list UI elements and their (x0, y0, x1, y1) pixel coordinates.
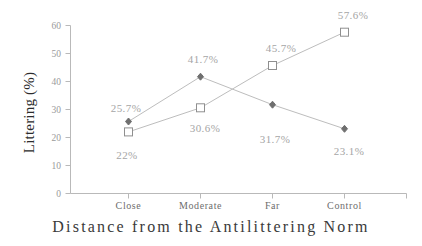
value-labels-solid: 25.7% 41.7% 31.7% 23.1% (111, 53, 364, 157)
x-tick-label-far: Far (265, 200, 280, 211)
y-tick-label-50: 50 (52, 49, 62, 59)
chart-figure: Littering (%) 0 10 20 30 40 50 60 (0, 0, 422, 246)
x-tick-label-moderate: Moderate (179, 200, 222, 211)
x-tick-label-close: Close (116, 200, 142, 211)
y-axis-ticks: 0 10 20 30 40 50 60 (52, 21, 71, 199)
value-label-open-moderate: 30.6% (190, 122, 220, 134)
x-axis-ticks: Close Moderate Far Control (116, 194, 407, 212)
y-tick-label-20: 20 (52, 133, 62, 143)
data-point-open-far (269, 62, 277, 70)
data-point-solid-moderate (198, 73, 204, 80)
value-label-solid-close: 25.7% (111, 102, 141, 114)
x-axis-title: Distance from the Antilittering Norm (0, 218, 422, 236)
data-point-open-moderate (197, 104, 205, 112)
y-tick-label-30: 30 (52, 105, 62, 115)
value-label-solid-far: 31.7% (260, 133, 290, 145)
x-tick-label-control: Control (327, 200, 362, 211)
series-line-open (129, 32, 345, 132)
data-point-solid-far (270, 101, 276, 108)
value-label-open-far: 45.7% (266, 42, 296, 54)
data-point-solid-control (342, 125, 348, 132)
data-point-solid-close (126, 118, 132, 125)
y-tick-label-0: 0 (56, 189, 61, 199)
y-tick-label-40: 40 (52, 77, 62, 87)
value-label-open-close: 22% (116, 149, 137, 161)
value-label-solid-moderate: 41.7% (188, 53, 218, 65)
series-markers-open (125, 28, 349, 136)
value-label-solid-control: 23.1% (334, 145, 364, 157)
y-tick-label-60: 60 (52, 21, 62, 31)
value-labels-open: 22% 30.6% 45.7% 57.6% (116, 9, 368, 161)
data-point-open-control (341, 28, 349, 36)
chart-plot-area: 0 10 20 30 40 50 60 Close Moderate Far C… (0, 0, 422, 246)
data-point-open-close (125, 128, 133, 136)
value-label-open-control: 57.6% (338, 9, 368, 21)
y-tick-label-10: 10 (52, 161, 62, 171)
